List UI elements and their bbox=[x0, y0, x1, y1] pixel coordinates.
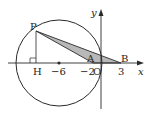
label-a: A bbox=[86, 53, 95, 64]
y-axis-label: y bbox=[90, 7, 97, 18]
tick-label-3: 3 bbox=[118, 66, 124, 77]
shaded-triangle-pab bbox=[36, 31, 121, 63]
label-origin: O bbox=[93, 66, 101, 77]
label-h: H bbox=[33, 66, 42, 77]
label-b: B bbox=[121, 53, 128, 64]
x-axis-arrow-icon bbox=[137, 61, 144, 66]
y-axis-arrow-icon bbox=[99, 9, 104, 16]
tick-label-minus6: −6 bbox=[51, 66, 66, 77]
center-point bbox=[57, 61, 60, 64]
x-axis-label: x bbox=[138, 66, 144, 77]
right-angle-mark-icon bbox=[30, 58, 36, 63]
label-p: P bbox=[30, 21, 37, 32]
coordinate-diagram: P H −6 A −2 O B 3 x y bbox=[0, 0, 148, 115]
